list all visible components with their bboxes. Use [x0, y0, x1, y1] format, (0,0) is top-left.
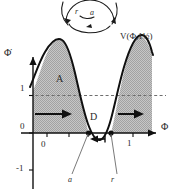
y-tick-label-1: 1: [20, 84, 25, 93]
region-right-fill: [111, 35, 152, 133]
y-tick-label-0: 0: [20, 122, 25, 131]
x-tick-label-1: 1: [127, 139, 132, 148]
y-axis-label: Φ̇: [4, 48, 11, 58]
region-label-deceleration: D: [90, 112, 97, 122]
potential-function-figure: r a: [0, 0, 178, 194]
curve-label-v: V(Φ,1½): [120, 32, 153, 41]
x-tick-label-0: 0: [41, 140, 46, 149]
attractor-point-a: [86, 130, 91, 135]
point-label-r: r: [111, 176, 114, 184]
x-axis-label: Φ: [161, 122, 168, 132]
y-axis-arrowhead: [29, 57, 36, 65]
region-A-fill: [33, 40, 89, 133]
point-label-a: a: [68, 176, 72, 184]
leader-line-r: [111, 134, 117, 174]
region-label-acceleration: A: [56, 74, 63, 84]
potential-plot: [0, 0, 178, 194]
leader-line-a: [72, 134, 88, 174]
y-tick-label-minus-1: -1: [16, 164, 24, 173]
